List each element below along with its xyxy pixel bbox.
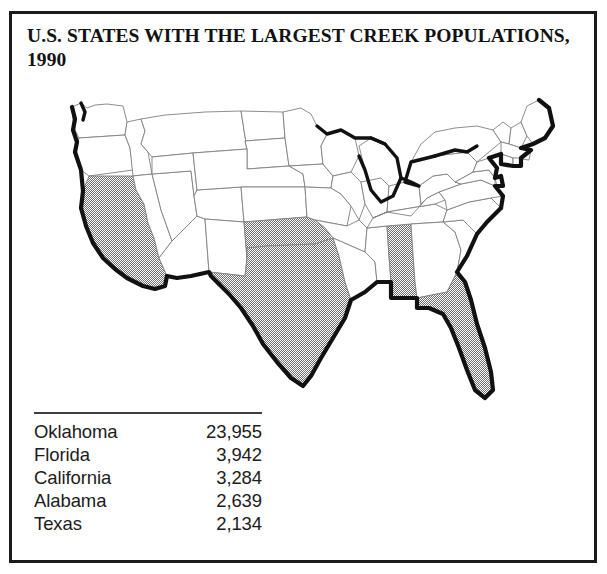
- row-state-name: Oklahoma: [34, 420, 171, 443]
- state-minnesota: [283, 108, 327, 166]
- row-state-name: Alabama: [34, 489, 171, 512]
- table-row: California 3,284: [34, 466, 262, 489]
- state-south-dakota: [245, 138, 289, 169]
- state-washington: [72, 103, 127, 138]
- table-row: Oklahoma 23,955: [34, 420, 262, 443]
- state-indiana: [361, 178, 389, 218]
- ranking-table-body: Oklahoma 23,955 Florida 3,942 California…: [34, 420, 262, 535]
- united-states-map: [15, 86, 597, 416]
- table-row: Texas 2,134: [34, 512, 262, 535]
- row-state-value: 2,639: [171, 489, 263, 512]
- row-state-name: California: [34, 466, 171, 489]
- ranking-table-container: Oklahoma 23,955 Florida 3,942 California…: [34, 412, 264, 535]
- figure-panel: U.S. STATES WITH THE LARGEST CREEK POPUL…: [9, 11, 597, 563]
- state-shapes-group: [72, 100, 553, 398]
- row-state-value: 3,942: [171, 443, 263, 466]
- state-colorado: [194, 187, 244, 222]
- row-state-value: 2,134: [171, 512, 263, 535]
- row-state-name: Florida: [34, 443, 171, 466]
- row-state-value: 23,955: [171, 420, 263, 443]
- state-new-mexico: [205, 219, 247, 276]
- table-row: Alabama 2,639: [34, 489, 262, 512]
- table-row: Florida 3,942: [34, 443, 262, 466]
- page-title: U.S. STATES WITH THE LARGEST CREEK POPUL…: [27, 24, 572, 71]
- state-kansas: [241, 187, 307, 222]
- row-state-value: 3,284: [171, 466, 263, 489]
- table-top-rule: [34, 412, 262, 414]
- row-state-name: Texas: [34, 512, 171, 535]
- ranking-table: Oklahoma 23,955 Florida 3,942 California…: [34, 420, 262, 535]
- map-container: [15, 86, 597, 416]
- state-oregon: [75, 135, 133, 176]
